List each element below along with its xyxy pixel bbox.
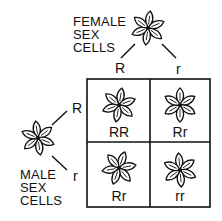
punnett-cell-Rr-bottom: Rr	[99, 189, 139, 203]
punnett-cell-rr: rr	[160, 189, 200, 203]
punnett-cell-Rr-top: Rr	[160, 125, 200, 139]
punnett-cell-RR: RR	[99, 125, 139, 139]
punnett-square-grid	[0, 0, 222, 221]
